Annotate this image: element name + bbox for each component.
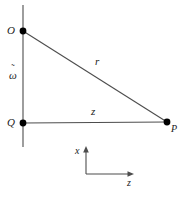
axis-key-x-arrowhead [83, 146, 89, 153]
segment-label-z: z [91, 106, 95, 117]
axis-key-z-arrowhead [128, 171, 135, 177]
omega-tilde-glyph: ˜ω [9, 70, 17, 81]
tilde-accent: ˜ [11, 64, 14, 74]
point-Q-marker [20, 120, 27, 127]
point-label-Q: Q [7, 117, 15, 128]
axis-label-z: z [127, 178, 131, 188]
point-P-marker [164, 119, 171, 126]
point-O-marker [20, 28, 27, 35]
horizontal-line-z [23, 122, 167, 123]
diagram-canvas [0, 0, 189, 200]
point-label-O: O [7, 25, 15, 36]
distance-label-omega-tilde: ˜ω [9, 70, 17, 81]
point-label-P: P [171, 124, 177, 134]
figure-container: O Q P r z ˜ω x z [0, 0, 189, 200]
segment-label-r: r [95, 56, 99, 67]
axis-label-x: x [75, 146, 79, 156]
